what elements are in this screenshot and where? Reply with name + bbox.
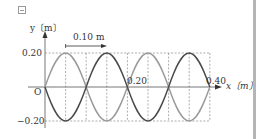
origin-label: O	[34, 88, 41, 97]
arrow-label: 0.10 m	[73, 33, 104, 42]
wavelength-arrow	[66, 44, 107, 48]
arrow-right-icon	[101, 44, 107, 48]
y-axis-label: y〔m〕	[30, 24, 62, 33]
page-edge-bar	[253, 0, 256, 139]
x-tick-020: 0.20	[127, 77, 147, 86]
x-tick-040: 0.40	[206, 77, 226, 86]
y-tick-top: 0.20	[22, 49, 42, 58]
y-tick-bottom: −0.20	[17, 117, 45, 126]
